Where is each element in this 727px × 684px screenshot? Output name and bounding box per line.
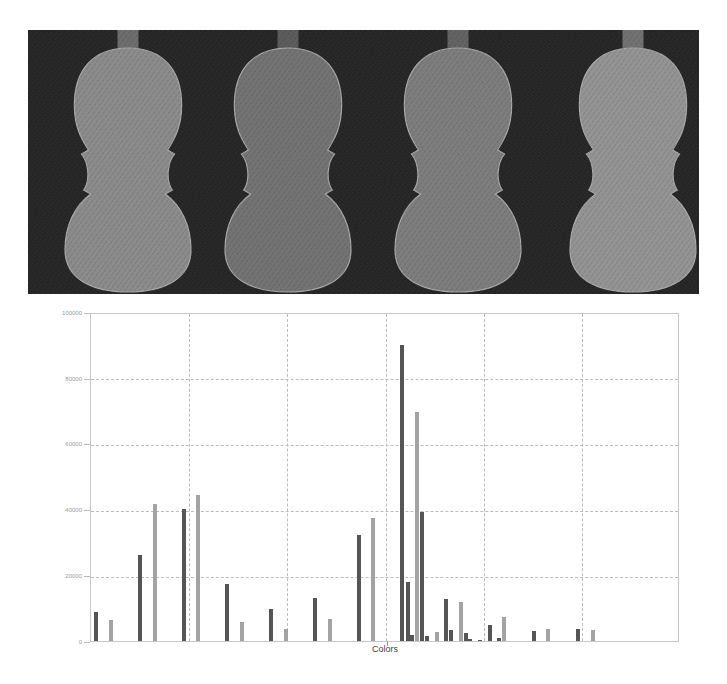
histogram-bar <box>410 635 414 641</box>
color-histogram-chart: 100000800006000040000200000 Colors <box>0 300 727 684</box>
histogram-bar <box>328 619 332 640</box>
histogram-bar <box>94 612 98 641</box>
histogram-bar <box>532 631 536 641</box>
histogram-bar <box>400 345 404 641</box>
y-tick-mark <box>84 642 90 643</box>
v-gridline <box>189 314 190 641</box>
histogram-bar <box>138 555 142 641</box>
histogram-bar <box>425 636 429 640</box>
y-tick-label: 100000 <box>42 310 82 316</box>
histogram-bar <box>576 629 580 641</box>
h-gridline <box>91 577 678 578</box>
histogram-bar <box>459 602 463 640</box>
histogram-bar <box>415 412 419 640</box>
histogram-bar <box>406 582 410 640</box>
histogram-bar <box>284 629 288 641</box>
y-tick-label: 60000 <box>42 441 82 447</box>
v-gridline <box>287 314 288 641</box>
histogram-bar <box>449 630 453 641</box>
plot-area <box>90 313 679 642</box>
histogram-bar <box>313 598 317 641</box>
y-tick-label: 20000 <box>42 573 82 579</box>
v-gridline <box>582 314 583 641</box>
histogram-bar <box>497 638 501 641</box>
histogram-bar <box>153 504 157 641</box>
histogram-bar <box>420 512 424 640</box>
histogram-bar <box>591 630 595 641</box>
h-gridline <box>91 445 678 446</box>
histogram-bar <box>225 584 229 641</box>
x-axis-label: Colors <box>360 644 410 654</box>
histogram-bar <box>444 599 448 641</box>
h-gridline <box>91 511 678 512</box>
histogram-bar <box>502 617 506 640</box>
violin-photo <box>28 30 699 294</box>
v-gridline <box>386 314 387 641</box>
y-tick-label: 80000 <box>42 376 82 382</box>
histogram-bar <box>478 640 482 641</box>
histogram-bar <box>488 625 492 640</box>
histogram-bar <box>240 622 244 641</box>
v-gridline <box>484 314 485 641</box>
y-tick-label: 0 <box>42 639 82 645</box>
histogram-bar <box>357 535 361 641</box>
histogram-bar <box>468 639 472 641</box>
histogram-bar <box>371 518 375 641</box>
photo-texture <box>28 30 699 294</box>
histogram-bar <box>109 620 113 641</box>
histogram-bar <box>435 632 439 640</box>
h-gridline <box>91 379 678 380</box>
histogram-bar <box>196 495 200 640</box>
histogram-bar <box>546 629 550 641</box>
histogram-bar <box>182 509 186 641</box>
y-tick-label: 40000 <box>42 507 82 513</box>
histogram-bar <box>269 609 273 640</box>
